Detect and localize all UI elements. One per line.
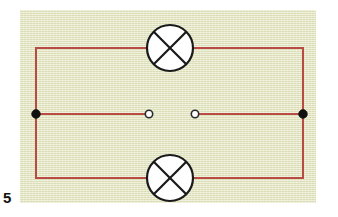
circuit-schematic	[20, 10, 316, 203]
lamp-bottom-symbol	[147, 155, 193, 201]
terminal-right-open-circle-icon	[191, 110, 198, 117]
terminal-left-open-circle-icon	[145, 110, 152, 117]
lamp-top-symbol	[147, 25, 193, 71]
junction-left-dot-icon	[32, 110, 41, 119]
figure-root: 5	[0, 0, 338, 217]
circuit-diagram-panel	[20, 10, 316, 203]
junction-right-dot-icon	[299, 110, 308, 119]
figure-number-label: 5	[3, 190, 11, 205]
